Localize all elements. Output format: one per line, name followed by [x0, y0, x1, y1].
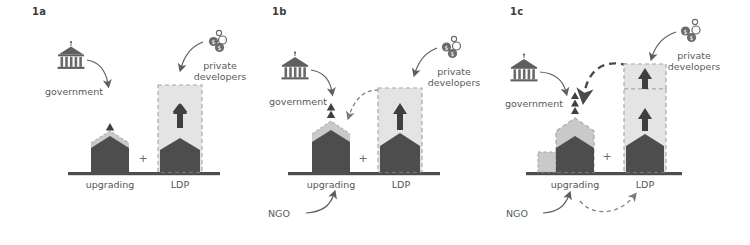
- government-building-icon: [58, 41, 85, 69]
- svg-text:$: $: [212, 38, 216, 45]
- panel-1a-graphics: $ $ +: [0, 0, 250, 245]
- bar-ldp: [624, 64, 666, 172]
- money-coins-icon: $ $: [681, 19, 700, 42]
- growth-arrow-ldp-upper: [642, 77, 648, 89]
- growth-arrow-ldp: [397, 112, 403, 130]
- label-ngo-1b: NGO: [268, 208, 302, 219]
- svg-text:$: $: [451, 50, 455, 57]
- connector-government-to-upgrading: [540, 72, 566, 92]
- panel-1a: 1a: [0, 0, 250, 245]
- bar-upgrading: [312, 103, 350, 172]
- label-government-1a: government: [38, 86, 110, 97]
- connector-ngo-to-upgrading: [543, 195, 569, 213]
- panel-1b: 1b: [250, 0, 500, 245]
- baseline: [288, 172, 440, 175]
- connector-government-to-upgrading: [87, 60, 108, 84]
- connector-ngo-to-upgrading: [306, 194, 334, 213]
- bar-ldp: [378, 88, 422, 172]
- government-building-icon: [511, 53, 538, 81]
- growth-arrow-ldp: [177, 112, 183, 128]
- axis-label-ldp-1c: LDP: [620, 179, 670, 190]
- bar-ldp: [158, 85, 202, 172]
- label-government-1c: government: [498, 98, 570, 109]
- svg-text:$: $: [690, 34, 694, 41]
- label-government-1b: government: [262, 96, 334, 107]
- label-private-developers-1c-l1: private: [666, 50, 722, 61]
- money-coins-icon: $ $: [442, 36, 461, 58]
- axis-label-upgrading-1a: upgrading: [75, 179, 145, 190]
- panel-1c: 1c: [500, 0, 750, 245]
- growth-arrow-upgrading: [106, 123, 114, 131]
- figure-canvas: 1a: [0, 0, 750, 245]
- axis-label-upgrading-1b: upgrading: [296, 179, 366, 190]
- connector-ngo-to-ldp: [580, 196, 634, 212]
- axis-label-upgrading-1c: upgrading: [540, 179, 610, 190]
- label-private-developers-1a-l2: developers: [188, 71, 252, 82]
- svg-text:$: $: [445, 44, 449, 51]
- growth-arrow-upgrading: [327, 111, 335, 119]
- label-private-developers-1b-l2: developers: [422, 77, 486, 88]
- government-building-icon: [282, 51, 309, 79]
- operator-plus: +: [358, 152, 367, 165]
- operator-plus: +: [602, 150, 611, 163]
- growth-arrow-ldp-main: [642, 117, 648, 131]
- label-private-developers-1b-l1: private: [426, 66, 482, 77]
- bar-upgrading: [91, 123, 129, 172]
- growth-arrow-upgrading: [571, 107, 579, 114]
- svg-text:$: $: [684, 28, 688, 35]
- label-private-developers-1a-l1: private: [192, 60, 248, 71]
- money-coins-icon: $ $: [209, 30, 227, 52]
- axis-label-ldp-1b: LDP: [376, 179, 426, 190]
- svg-text:$: $: [218, 44, 222, 51]
- connector-government-to-upgrading: [311, 70, 332, 92]
- label-ngo-1c: NGO: [506, 208, 540, 219]
- operator-plus: +: [138, 152, 147, 165]
- axis-label-ldp-1a: LDP: [155, 179, 205, 190]
- label-private-developers-1c-l2: developers: [662, 61, 726, 72]
